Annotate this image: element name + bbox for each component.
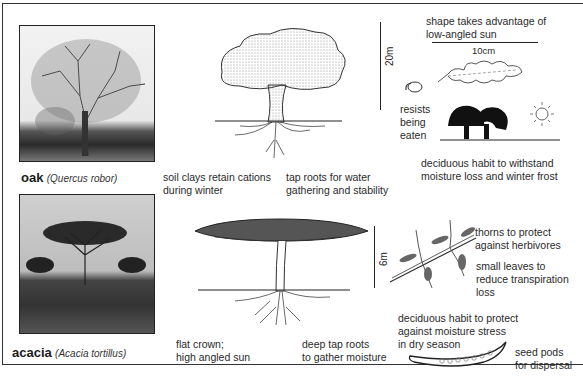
- acacia-thorn-branch-icon: [388, 218, 478, 290]
- acacia-crown-note: flat crown; high angled sun: [176, 338, 250, 364]
- acacia-leaves-note: small leaves to reduce transpiration los…: [476, 260, 569, 299]
- acorn-note: resists being eaten: [400, 103, 430, 142]
- oak-photo: [19, 25, 155, 162]
- acacia-label: acacia (Acacia tortillus): [12, 346, 126, 360]
- acacia-seed-pods-note: seed pods for dispersal: [515, 346, 572, 372]
- oak-height-scale-bar: [380, 22, 381, 110]
- acacia-roots-note: deep tap roots to gather moisture: [302, 338, 387, 364]
- oak-height-scale-label: 20m: [384, 47, 395, 66]
- acorn-icon: [403, 78, 425, 96]
- oak-common-name: oak: [21, 170, 43, 185]
- acacia-tree-diagram-icon: [190, 215, 380, 330]
- oak-label: oak (Quercus robor): [21, 171, 117, 185]
- acacia-tree-silhouette-icon: [20, 195, 154, 333]
- leaf-scale-bar: [432, 42, 538, 43]
- oak-soil-note: soil clays retain cations during winter: [163, 171, 271, 197]
- oak-latin-name: (Quercus robor): [47, 173, 118, 184]
- oak-tree-diagram-icon: [200, 10, 380, 160]
- oak-leaf-shape-note: shape takes advantage of low-angled sun: [426, 15, 546, 41]
- oak-tree-silhouette-icon: [20, 26, 154, 161]
- seed-pod-icon: [408, 340, 508, 370]
- deciduous-trees-sun-icon: [440, 100, 560, 145]
- oak-leaf-icon: [436, 56, 536, 86]
- acacia-height-scale-bar: [374, 226, 375, 288]
- acacia-photo: [19, 194, 155, 334]
- oak-deciduous-note: deciduous habit to withstand moisture lo…: [421, 157, 558, 183]
- acacia-common-name: acacia: [12, 345, 52, 360]
- oak-roots-note: tap roots for water gathering and stabil…: [286, 171, 388, 197]
- acacia-thorns-note: thorns to protect against herbivores: [475, 226, 561, 252]
- acacia-latin-name: (Acacia tortillus): [55, 348, 126, 359]
